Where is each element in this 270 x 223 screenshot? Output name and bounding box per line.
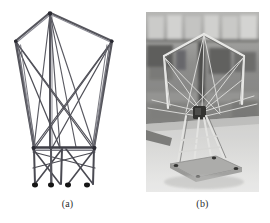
panel-a: (a) xyxy=(0,0,135,223)
panel-b-photo xyxy=(135,0,270,196)
lower-module-bracing xyxy=(33,149,95,184)
panel-b: (b) xyxy=(135,0,270,223)
panel-a-drawing xyxy=(0,0,135,196)
panel-a-caption: (a) xyxy=(0,198,135,209)
photo-grain xyxy=(146,12,259,192)
structure-schematic-svg xyxy=(0,0,135,196)
prototype-photograph-svg xyxy=(146,12,259,192)
mid-ring xyxy=(33,148,95,151)
figure-root: (a) xyxy=(0,0,270,223)
photograph-frame xyxy=(146,12,259,192)
panel-b-caption: (b) xyxy=(135,198,270,209)
